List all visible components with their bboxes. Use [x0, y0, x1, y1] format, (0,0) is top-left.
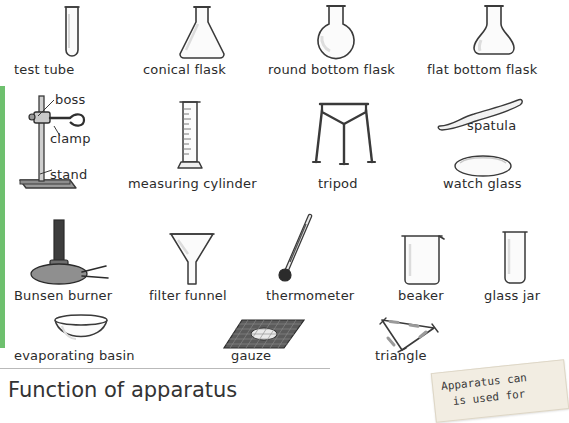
leader-lines [14, 88, 94, 188]
label-glass-jar: glass jar [484, 288, 540, 303]
test-tube-icon [52, 4, 92, 66]
bunsen-burner-icon [22, 216, 114, 288]
thermometer-icon [276, 210, 322, 286]
filter-funnel-icon [166, 228, 218, 290]
green-sidebar-stripe [0, 86, 5, 348]
label-tripod: tripod [318, 176, 358, 191]
label-test-tube: test tube [14, 62, 74, 77]
label-watch-glass: watch glass [443, 176, 522, 191]
label-flat-bottom-flask: flat bottom flask [427, 62, 537, 77]
measuring-cylinder-icon [172, 96, 208, 174]
flat-bottom-flask-icon [466, 2, 522, 60]
label-measuring-cylinder: measuring cylinder [128, 176, 257, 191]
label-spatula: spatula [467, 118, 516, 133]
gauze-icon [222, 318, 306, 352]
label-filter-funnel: filter funnel [149, 288, 227, 303]
conical-flask-icon [172, 4, 232, 62]
sticky-note: Apparatus can is used for [431, 359, 569, 423]
label-thermometer: thermometer [266, 288, 354, 303]
glass-jar-icon [494, 226, 534, 288]
label-bunsen-burner: Bunsen burner [14, 288, 112, 303]
label-conical-flask: conical flask [143, 62, 226, 77]
label-beaker: beaker [398, 288, 444, 303]
title-divider [0, 368, 330, 369]
tripod-icon [312, 94, 376, 174]
label-evaporating-basin: evaporating basin [14, 348, 135, 363]
beaker-icon [396, 230, 448, 288]
label-round-bottom-flask: round bottom flask [268, 62, 395, 77]
label-gauze: gauze [231, 348, 271, 363]
label-triangle: triangle [375, 348, 427, 363]
page-title: Function of apparatus [8, 378, 237, 402]
round-bottom-flask-icon [308, 2, 364, 60]
evaporating-basin-icon [50, 314, 112, 350]
